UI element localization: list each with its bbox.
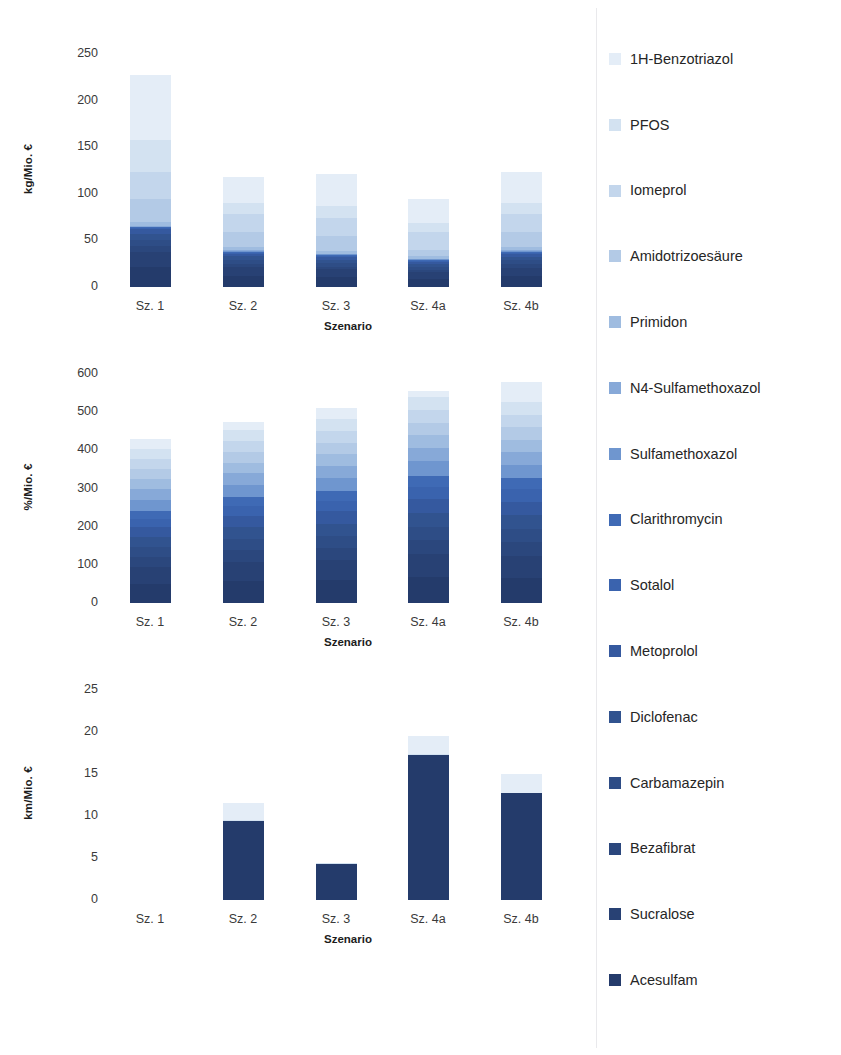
legend-swatch-icon xyxy=(609,579,621,591)
legend-item[interactable]: 1H-Benzotriazol xyxy=(609,50,733,68)
legend-item-label: Acesulfam xyxy=(630,973,698,988)
bar-segment xyxy=(223,441,264,452)
legend-swatch-icon xyxy=(609,382,621,394)
bar-segment xyxy=(501,232,542,248)
bar-sz-4a[interactable] xyxy=(408,391,449,603)
bar-segment xyxy=(130,584,171,603)
bar-segment xyxy=(130,469,171,479)
x-axis-tick: Sz. 1 xyxy=(115,912,185,926)
legend-swatch-icon xyxy=(609,119,621,131)
bar-segment xyxy=(408,397,449,409)
bar-segment xyxy=(501,578,542,603)
y-axis-tick: 25 xyxy=(46,683,98,696)
bar-sz-4a[interactable] xyxy=(408,199,449,287)
bar-segment xyxy=(408,423,449,436)
legend-item[interactable]: Carbamazepin xyxy=(609,774,724,792)
x-axis-tick: Sz. 3 xyxy=(301,615,371,629)
bar-segment xyxy=(408,448,449,461)
x-axis-tick: Sz. 3 xyxy=(301,299,371,313)
bar-sz-4a[interactable] xyxy=(408,736,449,900)
bar-segment xyxy=(501,276,542,287)
legend-item[interactable]: Amidotrizoesäure xyxy=(609,247,743,265)
legend-swatch-icon xyxy=(609,53,621,65)
bar-sz-2[interactable] xyxy=(223,177,264,287)
legend-item[interactable]: Diclofenac xyxy=(609,708,698,726)
bar-segment xyxy=(408,410,449,423)
legend-item-label: Iomeprol xyxy=(630,183,686,198)
bar-segment xyxy=(408,487,449,499)
legend-item[interactable]: Sulfamethoxazol xyxy=(609,445,737,463)
legend-item-label: Amidotrizoesäure xyxy=(630,249,743,264)
bar-segment xyxy=(223,516,264,527)
legend-item-label: PFOS xyxy=(630,118,669,133)
legend-item[interactable]: Metoprolol xyxy=(609,642,698,660)
bar-segment xyxy=(408,540,449,554)
bar-segment xyxy=(223,430,264,441)
bar-sz-1[interactable] xyxy=(130,75,171,287)
bar-segment xyxy=(316,419,357,430)
bar-segment xyxy=(501,542,542,556)
bar-sz-3[interactable] xyxy=(316,408,357,603)
legend-item[interactable]: PFOS xyxy=(609,116,669,134)
bar-sz-4b[interactable] xyxy=(501,172,542,287)
bar-segment xyxy=(130,252,171,267)
legend-item[interactable]: Clarithromycin xyxy=(609,511,723,529)
bar-segment xyxy=(501,415,542,428)
y-axis-tick: 0 xyxy=(46,280,98,293)
bar-segment xyxy=(408,527,449,541)
bar-segment xyxy=(316,443,357,454)
x-axis-tick: Sz. 1 xyxy=(115,299,185,313)
bar-segment xyxy=(501,489,542,501)
bar-sz-2[interactable] xyxy=(223,803,264,900)
legend-item-label: Primidon xyxy=(630,315,687,330)
bar-segment xyxy=(130,567,171,584)
bar-segment xyxy=(316,174,357,206)
legend-swatch-icon xyxy=(609,645,621,657)
bar-segment xyxy=(223,497,264,506)
bar-segment xyxy=(501,793,542,900)
legend-item-label: Carbamazepin xyxy=(630,776,724,791)
bar-segment xyxy=(501,452,542,465)
bar-segment xyxy=(223,463,264,474)
y-axis-tick: 15 xyxy=(46,767,98,780)
legend-swatch-icon xyxy=(609,843,621,855)
bar-sz-2[interactable] xyxy=(223,422,264,603)
y-axis-tick: 300 xyxy=(46,482,98,495)
bar-segment xyxy=(316,454,357,465)
bar-segment xyxy=(223,803,264,820)
y-axis-label: kg/Mio. € xyxy=(22,127,34,211)
bar-sz-4b[interactable] xyxy=(501,774,542,900)
y-axis-label: %/Mio. € xyxy=(22,445,34,529)
x-axis-title: Szenario xyxy=(108,636,588,648)
bar-sz-1[interactable] xyxy=(130,439,171,603)
bar-sz-3[interactable] xyxy=(316,863,357,900)
legend-item[interactable]: Acesulfam xyxy=(609,971,698,989)
legend-item[interactable]: N4-Sulfamethoxazol xyxy=(609,379,761,397)
bar-segment xyxy=(316,478,357,491)
bar-segment xyxy=(130,479,171,489)
legend-swatch-icon xyxy=(609,514,621,526)
bar-segment xyxy=(223,581,264,603)
bar-segment xyxy=(130,527,171,537)
legend-swatch-icon xyxy=(609,974,621,986)
bar-segment xyxy=(223,422,264,430)
bar-segment xyxy=(408,755,449,900)
y-axis-tick: 10 xyxy=(46,809,98,822)
legend-item[interactable]: Primidon xyxy=(609,313,687,331)
legend-item[interactable]: Iomeprol xyxy=(609,182,686,200)
bar-segment xyxy=(223,267,264,275)
chart-1: %/Mio. €0100200300400500600Sz. 1Sz. 2Sz.… xyxy=(0,344,596,660)
x-axis-tick: Sz. 2 xyxy=(208,912,278,926)
y-axis-tick: 400 xyxy=(46,443,98,456)
bar-sz-3[interactable] xyxy=(316,174,357,287)
legend-swatch-icon xyxy=(609,711,621,723)
bar-segment xyxy=(316,580,357,603)
bar-segment xyxy=(223,562,264,581)
bar-segment xyxy=(130,537,171,547)
bar-sz-4b[interactable] xyxy=(501,382,542,603)
legend-item[interactable]: Sucralose xyxy=(609,905,694,923)
legend-item[interactable]: Bezafibrat xyxy=(609,840,695,858)
bar-segment xyxy=(130,449,171,459)
legend-item[interactable]: Sotalol xyxy=(609,576,674,594)
y-axis-tick: 0 xyxy=(46,596,98,609)
